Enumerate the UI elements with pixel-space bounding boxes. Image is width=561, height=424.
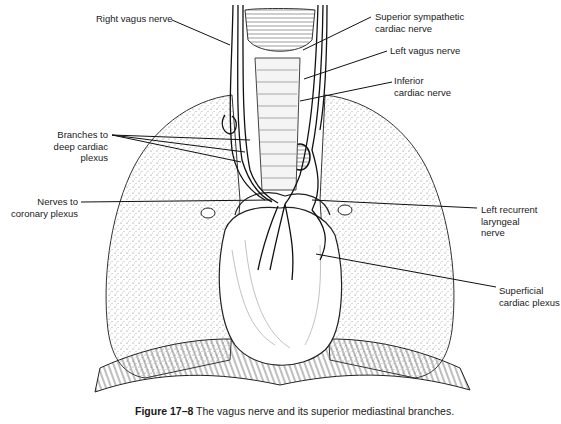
figure-caption: Figure 17–8 The vagus nerve and its supe… — [135, 405, 454, 417]
label-line: laryngeal — [481, 216, 538, 228]
label-line: Left recurrent — [481, 204, 538, 216]
label-branches-to-deep-cardiac-plexus: Branches to deep cardiac plexus — [48, 129, 108, 164]
figure-number: Figure 17–8 — [135, 405, 193, 417]
label-nerves-to-coronary-plexus: Nerves to coronary plexus — [8, 196, 78, 219]
label-line: Nerves to — [8, 196, 78, 208]
label-left-recurrent-laryngeal-nerve: Left recurrent laryngeal nerve — [481, 204, 538, 239]
label-line: Branches to — [48, 129, 108, 141]
leader-right-vagus — [172, 20, 230, 45]
label-line: Superficial — [499, 285, 560, 297]
label-line: cardiac nerve — [375, 23, 464, 35]
label-line: cardiac nerve — [394, 87, 451, 99]
label-line: Superior sympathetic — [375, 11, 464, 23]
label-line: Inferior — [394, 75, 451, 87]
label-inferior-cardiac-nerve: Inferior cardiac nerve — [394, 75, 451, 98]
label-line: cardiac plexus — [499, 297, 560, 309]
label-superior-sympathetic-cardiac-nerve: Superior sympathetic cardiac nerve — [375, 11, 464, 34]
heart — [219, 207, 341, 365]
anatomy-figure: Right vagus nerve Superior sympathetic c… — [0, 0, 561, 424]
label-left-vagus-nerve: Left vagus nerve — [390, 45, 460, 57]
label-line: plexus — [48, 152, 108, 164]
label-line: nerve — [481, 227, 538, 239]
label-superficial-cardiac-plexus: Superficial cardiac plexus — [499, 285, 560, 308]
left-lung — [320, 95, 454, 378]
figure-caption-text: The vagus nerve and its superior mediast… — [196, 405, 454, 417]
label-line: coronary plexus — [8, 208, 78, 220]
label-right-vagus-nerve: Right vagus nerve — [96, 13, 173, 25]
anatomy-illustration — [0, 0, 561, 400]
label-line: deep cardiac — [48, 141, 108, 153]
